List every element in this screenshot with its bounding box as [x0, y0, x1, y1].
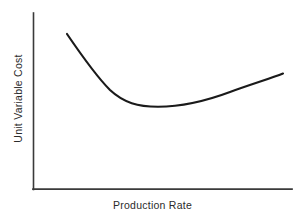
x-axis-label: Production Rate: [0, 199, 305, 212]
y-axis-label: Unit Variable Cost: [12, 44, 25, 154]
chart-canvas: [0, 0, 305, 216]
y-axis-label-text: Unit Variable Cost: [12, 54, 24, 142]
plot-background: [0, 0, 305, 216]
chart-figure: Production Rate Unit Variable Cost: [0, 0, 305, 216]
x-axis-label-text: Production Rate: [113, 199, 192, 211]
